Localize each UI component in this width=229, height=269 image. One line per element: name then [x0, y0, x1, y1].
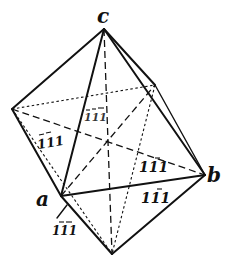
face-index-text: 111 [141, 190, 170, 206]
face-label-front-lower: 111 [141, 189, 170, 206]
face-label-left-upper: 111 [36, 132, 65, 152]
face-label-back-upper: 111 [84, 108, 107, 124]
face-index-text: 111 [84, 111, 107, 124]
overbar-2 [46, 132, 51, 133]
face-index-text: 111 [36, 133, 65, 152]
octahedron-diagram: c b a 111 111 111 111 111 [0, 0, 229, 269]
vertex-label-b: b [207, 163, 221, 187]
edge-top-backright [104, 29, 155, 85]
edge-top-b [104, 29, 205, 175]
edge-top-left [12, 29, 104, 109]
face-index-text: 111 [52, 224, 77, 238]
vertex-label-a: a [36, 187, 49, 211]
overbar-1 [39, 134, 44, 135]
edge-left-a [12, 109, 61, 196]
leader-line [57, 205, 67, 218]
face-label-right-upper: 111 [139, 158, 168, 175]
vertex-label-c: c [97, 4, 109, 28]
face-index-text: 111 [139, 159, 168, 175]
